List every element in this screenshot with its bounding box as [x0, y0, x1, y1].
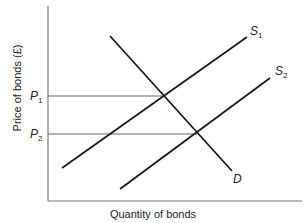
s2-label: S2 — [275, 64, 288, 80]
x-axis-label: Quantity of bonds — [110, 208, 197, 220]
s1-curve — [62, 37, 247, 168]
y-tick-p1: P1 — [30, 89, 43, 105]
bond-market-chart: P1P2 DS1S2 Quantity of bonds Price of bo… — [0, 0, 306, 223]
s1-label: S1 — [250, 24, 263, 40]
y-tick-p2: P2 — [30, 127, 43, 143]
y-axis-label: Price of bonds (£) — [11, 45, 23, 132]
d-label: D — [233, 172, 242, 186]
